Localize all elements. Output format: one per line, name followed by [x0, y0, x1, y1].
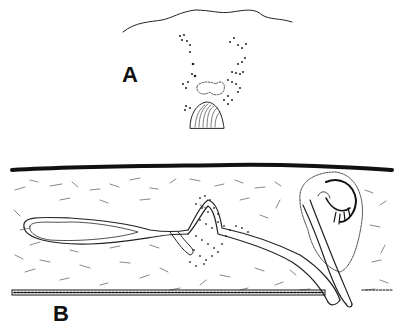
surface-line	[123, 10, 292, 32]
panel-label-b: B	[53, 303, 69, 325]
panel-b-drawing	[12, 165, 392, 307]
stippled-zone	[189, 195, 249, 267]
left-chamber-inner	[30, 222, 138, 241]
dotted-chamber	[197, 82, 224, 95]
sediment-dots	[179, 34, 247, 111]
figure-illustration	[0, 0, 408, 332]
panel-a-drawing	[123, 10, 292, 128]
soil-texture	[14, 178, 388, 290]
right-chamber-dark-arc	[326, 180, 356, 222]
left-chamber-outer	[24, 217, 188, 231]
side-branch	[170, 232, 193, 255]
top-surface-line	[12, 165, 392, 170]
right-chamber-small-loop	[318, 192, 330, 198]
right-round-chamber	[300, 172, 363, 272]
left-chamber-outer-bottom	[24, 227, 188, 244]
right-chamber-inner-arc	[326, 198, 350, 211]
panel-label-a: A	[122, 64, 138, 86]
main-burrow-lower	[188, 206, 328, 302]
mound-hatch	[195, 104, 220, 127]
right-tube-end	[346, 304, 352, 307]
main-burrow-return	[328, 300, 340, 305]
